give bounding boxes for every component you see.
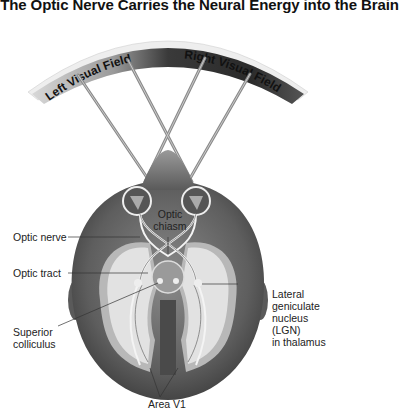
visual-field-arc — [28, 41, 308, 104]
optic-nerve-label: Optic nerve — [13, 231, 67, 243]
lgn-label: Lateral geniculate nucleus (LGN) in thal… — [272, 288, 326, 348]
area-v1-label: Area V1 — [148, 398, 186, 410]
left-eye — [123, 187, 151, 215]
optic-tract-label: Optic tract — [13, 267, 61, 279]
optic-chiasm-label: Optic chiasm — [150, 208, 190, 232]
superior-colliculus-label: Superior colliculus — [13, 326, 56, 350]
